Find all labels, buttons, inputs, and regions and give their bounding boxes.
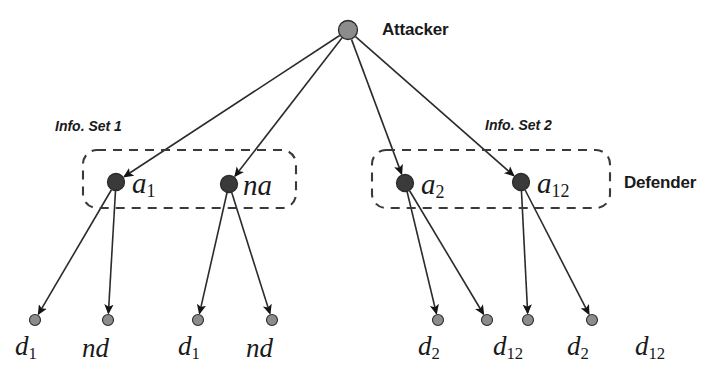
leaf-label-l3: d1	[178, 333, 200, 362]
leaf-node-l6	[482, 315, 493, 326]
leaf-node-l2	[103, 315, 114, 326]
decision-node-n2	[221, 176, 238, 193]
leaf-label-base: d	[178, 331, 192, 361]
player-label-attacker: Attacker	[382, 20, 448, 40]
leaf-node-l5	[433, 315, 444, 326]
action-label-n2: na	[243, 171, 272, 200]
leaf-node-l8	[587, 315, 598, 326]
action-label-base: a	[421, 168, 436, 200]
tree-edge	[351, 39, 401, 173]
leaf-label-base: d	[493, 331, 507, 361]
player-label-defender: Defender	[624, 173, 696, 193]
decision-node-n4	[513, 174, 530, 191]
tree-edge	[124, 35, 339, 176]
leaf-label-l1: d1	[15, 333, 37, 362]
action-label-base: a	[537, 167, 552, 199]
leaf-label-subscript: 2	[581, 344, 589, 363]
info-set-label: Info. Set 2	[485, 117, 552, 133]
action-label-subscript: 2	[436, 182, 445, 202]
leaf-label-subscript: 12	[649, 344, 666, 363]
leaf-label-l7: d2	[567, 333, 589, 362]
leaf-node-l1	[30, 315, 41, 326]
leaf-label-l6: d12	[493, 333, 523, 362]
leaf-label-l2: nd	[82, 335, 109, 362]
tree-edge	[232, 193, 270, 314]
tree-edge	[108, 191, 115, 313]
tree-graphics-layer	[0, 0, 728, 385]
action-label-n3: a2	[421, 170, 444, 201]
leaf-label-subscript: 2	[432, 344, 440, 363]
tree-nodes	[30, 21, 598, 326]
leaf-node-l4	[267, 315, 278, 326]
action-label-base: a	[132, 167, 147, 199]
leaf-label-base: d	[567, 331, 581, 361]
info-set-boxes	[83, 150, 610, 208]
action-label-subscript: 12	[552, 181, 570, 201]
leaf-label-base: d	[635, 331, 649, 361]
tree-edge	[235, 38, 342, 176]
leaf-label-l4: nd	[246, 335, 273, 362]
tree-edge	[356, 37, 514, 176]
tree-edge	[410, 191, 484, 314]
leaf-label-base: d	[15, 331, 29, 361]
action-label-base: na	[243, 169, 272, 201]
root-node-attacker	[339, 21, 358, 40]
info-set-label: Info. Set 1	[55, 118, 122, 134]
leaf-label-base: nd	[82, 333, 109, 363]
action-label-n4: a12	[537, 169, 569, 200]
leaf-node-l7	[523, 315, 534, 326]
leaf-label-subscript: 1	[29, 344, 37, 363]
leaf-label-l5: d2	[418, 333, 440, 362]
leaf-label-l8: d12	[635, 333, 665, 362]
leaf-label-subscript: 1	[192, 344, 200, 363]
decision-node-n1	[108, 174, 125, 191]
leaf-label-subscript: 12	[507, 344, 524, 363]
decision-node-n3	[397, 175, 414, 192]
action-label-subscript: 1	[147, 181, 156, 201]
leaf-label-base: d	[418, 331, 432, 361]
tree-edge	[200, 193, 227, 313]
game-tree-figure: Attacker Defender Info. Set 1Info. Set 2…	[0, 0, 728, 385]
action-label-n1: a1	[132, 169, 155, 200]
leaf-node-l3	[193, 315, 204, 326]
tree-edge	[521, 191, 527, 313]
leaf-label-base: nd	[246, 333, 273, 363]
